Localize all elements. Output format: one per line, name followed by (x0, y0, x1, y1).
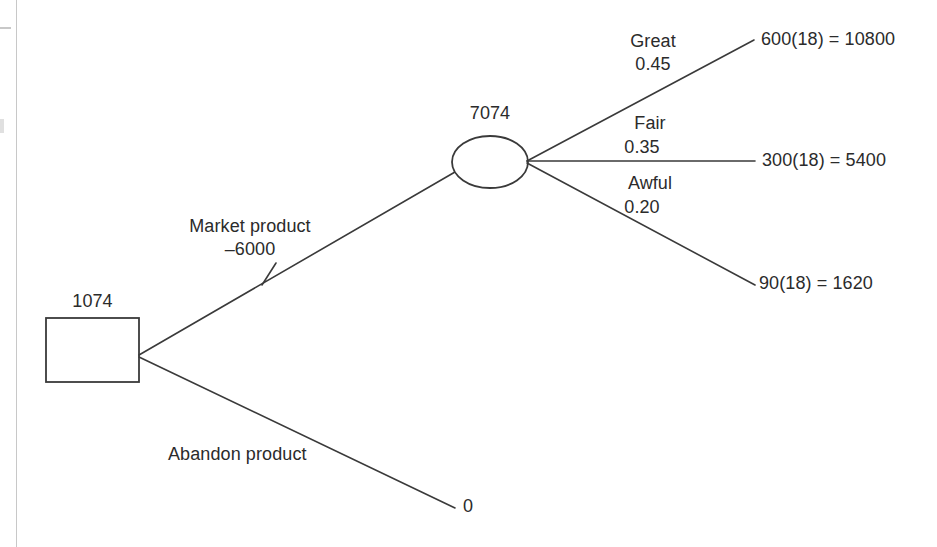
terminal-payoff-fair: 300(18) = 5400 (762, 149, 886, 171)
decision-node-square (46, 318, 139, 382)
terminal-payoff-abandon: 0 (463, 495, 473, 517)
decision-node-value: 1074 (46, 290, 139, 312)
chance-node-circle (452, 136, 528, 188)
terminal-payoff-great: 600(18) = 10800 (761, 28, 895, 50)
terminal-payoff-awful: 90(18) = 1620 (759, 272, 873, 294)
branch-tick-mark (262, 263, 276, 285)
outcome-label-fair: Fair (605, 112, 695, 134)
decision-tree-canvas: 1074 7074 Market product –6000 Abandon p… (0, 0, 937, 547)
outcome-probability-great: 0.45 (608, 53, 698, 75)
outcome-label-great: Great (608, 30, 698, 52)
outcome-probability-awful: 0.20 (597, 196, 687, 218)
branch-cost-market-product: –6000 (160, 238, 340, 260)
outcome-label-awful: Awful (605, 172, 695, 194)
branch-label-abandon-product: Abandon product (168, 443, 307, 465)
branch-abandon-product (139, 357, 455, 508)
branch-market-product (139, 172, 455, 355)
outcome-probability-fair: 0.35 (597, 136, 687, 158)
branch-label-market-product: Market product (160, 215, 340, 237)
chance-node-value: 7074 (440, 102, 540, 124)
